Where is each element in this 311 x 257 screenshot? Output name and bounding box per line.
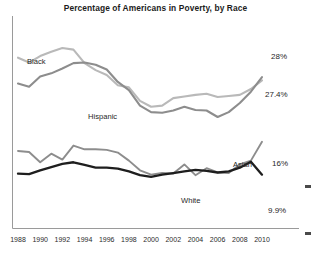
series-label-asian: Asian bbox=[233, 160, 252, 169]
value-label-hispanic: 28% bbox=[271, 52, 287, 61]
chart-plot-area bbox=[0, 0, 311, 257]
series-label-white: White bbox=[181, 196, 200, 205]
series-label-black: Black bbox=[27, 57, 46, 66]
x-tick-2010: 2010 bbox=[248, 236, 276, 243]
value-label-asian: 16% bbox=[272, 159, 288, 168]
series-line-asian bbox=[18, 142, 262, 175]
right-edge-tick-lower bbox=[305, 232, 311, 235]
value-label-white: 9.9% bbox=[268, 206, 286, 215]
series-line-hispanic bbox=[18, 63, 262, 117]
value-label-black: 27.4% bbox=[265, 90, 288, 99]
poverty-by-race-chart: Percentage of Americans in Poverty, by R… bbox=[0, 0, 311, 257]
right-edge-tick-upper bbox=[305, 185, 311, 188]
series-line-black bbox=[18, 48, 262, 107]
series-label-hispanic: Hispanic bbox=[88, 112, 117, 121]
